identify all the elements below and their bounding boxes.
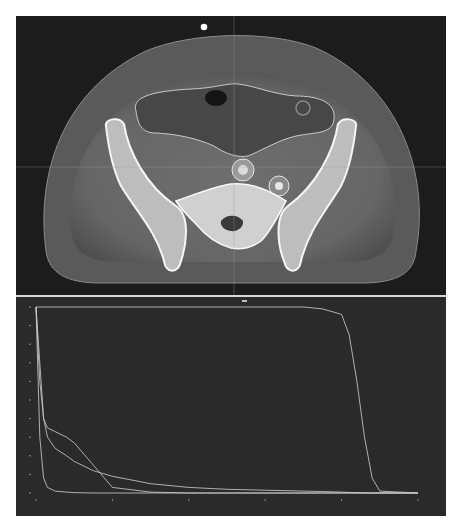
right-vessel-lumen <box>275 182 283 190</box>
y-tick <box>29 344 31 345</box>
orientation-dot-marker <box>201 24 208 31</box>
y-tick <box>29 400 31 401</box>
y-tick <box>29 493 31 494</box>
dvh-curves <box>36 307 418 493</box>
dvh-plot <box>16 297 446 516</box>
y-tick <box>29 437 31 438</box>
y-tick <box>29 381 31 382</box>
y-tick <box>29 362 31 363</box>
chart-title-mark <box>242 300 247 302</box>
y-tick <box>29 474 31 475</box>
x-tick <box>112 499 113 501</box>
dvh-chart-panel <box>16 297 446 516</box>
y-tick <box>29 418 31 419</box>
dvh-curve-organ-b[interactable] <box>36 307 418 493</box>
left-vessel-lumen <box>238 165 248 175</box>
ct-viewport[interactable] <box>16 16 446 295</box>
x-tick <box>341 499 342 501</box>
x-tick <box>36 499 37 501</box>
y-tick <box>29 455 31 456</box>
y-tick <box>29 325 31 326</box>
x-tick <box>265 499 266 501</box>
bowel-gas <box>205 90 227 106</box>
y-tick <box>29 307 31 308</box>
x-tick <box>188 499 189 501</box>
ct-axial-slice[interactable] <box>16 16 446 295</box>
x-tick <box>418 499 419 501</box>
